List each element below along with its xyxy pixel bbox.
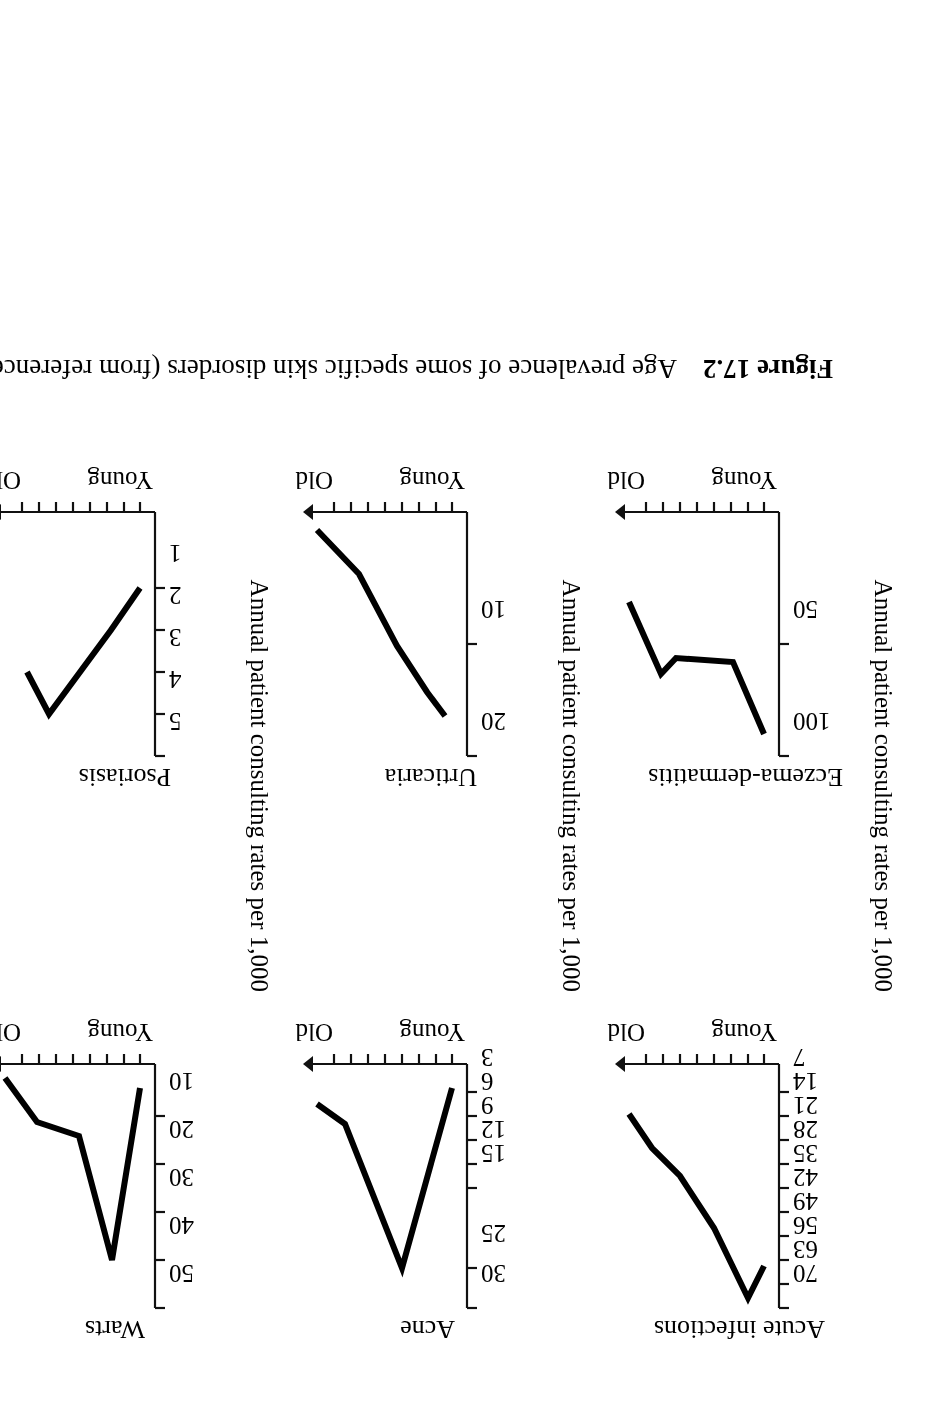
plot-eczema-dermatitis <box>615 492 781 758</box>
panel-urticaria: Urticaria <box>305 462 555 792</box>
ytick-label: 9 <box>481 1093 525 1118</box>
xtick-label-old: Old <box>0 466 21 494</box>
plot-svg-urticaria <box>303 492 469 758</box>
y-tick-marks <box>467 1092 477 1308</box>
x-axis-arrowhead <box>615 1056 625 1072</box>
x-tick-marks <box>334 1054 452 1064</box>
series-line-psoriasis <box>27 588 140 714</box>
ytick-label: 20 <box>169 1117 213 1142</box>
series-line-urticaria <box>317 530 445 716</box>
y-tick-marks <box>779 644 789 756</box>
ytick-label: 63 <box>793 1237 837 1262</box>
ytick-label: 25 <box>481 1221 525 1246</box>
xtick-label-young: Young <box>399 466 465 494</box>
xtick-label-old: Old <box>296 1018 334 1046</box>
x-axis-arrowhead <box>303 504 313 520</box>
xtick-label-young: Young <box>87 466 153 494</box>
ytick-label: 50 <box>793 597 853 622</box>
plot-acute-infections <box>615 1044 781 1310</box>
x-tick-marks <box>646 502 764 512</box>
figure-caption-text: Age prevalence of some specific skin dis… <box>0 354 677 384</box>
ytick-label: 10 <box>169 1069 213 1094</box>
ytick-label: 30 <box>169 1165 213 1190</box>
series-line-acute-infections <box>629 1114 764 1298</box>
x-tick-marks <box>22 1054 140 1064</box>
xtick-label-old: Old <box>608 1018 646 1046</box>
ytick-label: 10 <box>481 597 533 622</box>
plot-svg-acne <box>303 1044 469 1310</box>
x-tick-marks <box>646 1054 764 1064</box>
xtick-label-young: Young <box>399 1018 465 1046</box>
plot-svg-psoriasis <box>0 492 157 758</box>
ytick-label: 12 <box>481 1117 525 1142</box>
plot-psoriasis <box>0 492 157 758</box>
x-axis-arrowhead <box>0 504 1 520</box>
panel-warts: Warts <box>0 1014 243 1344</box>
ytick-label: 56 <box>793 1213 837 1238</box>
figure-page: Acute infections <box>0 0 943 1404</box>
panel-acute-infections: Acute infections <box>617 1014 867 1344</box>
y-axis-title: Annual patient consulting rates per 1,00… <box>245 580 273 992</box>
ytick-label: 21 <box>793 1093 837 1118</box>
ytick-label: 7 <box>793 1045 837 1070</box>
plot-svg-warts <box>0 1044 157 1310</box>
panel-title-acne: Acne <box>400 1314 455 1344</box>
ytick-label: 1 <box>169 541 213 566</box>
x-axis-arrowhead <box>0 1056 1 1072</box>
y-tick-marks <box>155 1116 165 1308</box>
x-axis-arrowhead <box>303 1056 313 1072</box>
ytick-label: 3 <box>481 1045 525 1070</box>
ytick-label: 2 <box>169 583 213 608</box>
y-tick-marks <box>155 588 165 756</box>
ytick-label: 4 <box>169 667 213 692</box>
y-tick-marks <box>467 644 477 756</box>
xtick-label-young: Young <box>711 1018 777 1046</box>
ytick-label: 20 <box>481 709 533 734</box>
series-line-warts <box>5 1078 140 1260</box>
ytick-label: 28 <box>793 1117 837 1142</box>
panel-title-psoriasis: Psoriasis <box>79 762 171 792</box>
x-axis-arrowhead <box>615 504 625 520</box>
y-axis-title: Annual patient consulting rates per 1,00… <box>557 580 585 992</box>
x-tick-marks <box>334 502 452 512</box>
plot-warts <box>0 1044 157 1310</box>
panel-title-urticaria: Urticaria <box>385 762 477 792</box>
ytick-label: 6 <box>481 1069 525 1094</box>
plot-svg-acute-infections <box>615 1044 781 1310</box>
ytick-label: 40 <box>169 1213 213 1238</box>
ytick-label: 100 <box>793 709 853 734</box>
panel-title-acute-infections: Acute infections <box>654 1314 825 1344</box>
ytick-label: 70 <box>793 1261 837 1286</box>
ytick-label: 50 <box>169 1261 213 1286</box>
ytick-label: 14 <box>793 1069 837 1094</box>
ytick-label: 3 <box>169 625 213 650</box>
figure-caption: Figure 17.2 Age prevalence of some speci… <box>0 353 833 384</box>
panel-acne: Acne <box>305 1014 555 1344</box>
panel-eczema-dermatitis: Eczema-dermatitis <box>617 462 867 792</box>
xtick-label-old: Old <box>0 1018 21 1046</box>
xtick-label-old: Old <box>296 466 334 494</box>
ytick-label: 15 <box>481 1141 525 1166</box>
ytick-label: 30 <box>481 1261 525 1286</box>
plot-acne <box>303 1044 469 1310</box>
ytick-label: 49 <box>793 1189 837 1214</box>
plot-svg-eczema-dermatitis <box>615 492 781 758</box>
series-line-eczema-dermatitis <box>629 602 764 734</box>
panel-psoriasis: Psoriasis <box>0 462 243 792</box>
panel-title-eczema-dermatitis: Eczema-dermatitis <box>648 762 843 792</box>
figure-label: Figure 17.2 <box>703 354 833 384</box>
plot-urticaria <box>303 492 469 758</box>
panel-title-warts: Warts <box>85 1314 145 1344</box>
ytick-label: 42 <box>793 1165 837 1190</box>
rotated-page-content: Acute infections <box>0 0 943 1404</box>
xtick-label-old: Old <box>608 466 646 494</box>
y-axis-title: Annual patient consulting rates per 1,00… <box>869 580 897 992</box>
ytick-label: 35 <box>793 1141 837 1166</box>
x-tick-marks <box>22 502 140 512</box>
series-line-acne <box>317 1088 452 1268</box>
y-tick-marks <box>779 1092 789 1308</box>
xtick-label-young: Young <box>711 466 777 494</box>
xtick-label-young: Young <box>87 1018 153 1046</box>
ytick-label: 5 <box>169 709 213 734</box>
